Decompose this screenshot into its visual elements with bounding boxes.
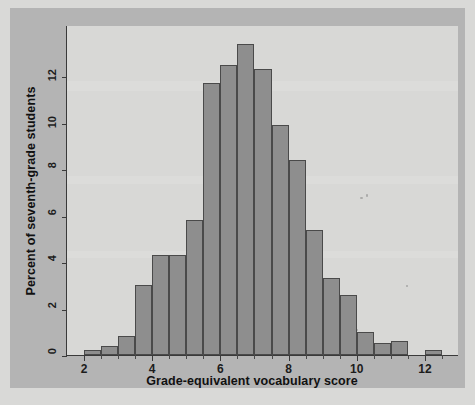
x-axis-minor-tick xyxy=(101,355,102,359)
x-axis-minor-tick xyxy=(272,355,273,359)
y-axis-tick-label: 0 xyxy=(46,348,58,362)
figure-panel: 024681012 24681012 Percent of seventh-gr… xyxy=(10,8,465,388)
x-axis-minor-tick xyxy=(340,355,341,359)
x-axis-minor-tick xyxy=(374,355,375,359)
x-axis-minor-tick xyxy=(135,355,136,359)
plot-area: 024681012 24681012 xyxy=(66,26,458,356)
x-axis-title: Grade-equivalent vocabulary score xyxy=(56,374,448,388)
x-axis-tick xyxy=(289,355,290,361)
x-axis-minor-tick xyxy=(203,355,204,359)
x-axis-tick xyxy=(84,355,85,361)
x-axis-tick xyxy=(152,355,153,361)
y-axis-tick xyxy=(62,310,67,311)
x-axis-minor-tick xyxy=(442,355,443,359)
x-axis-minor-tick xyxy=(323,355,324,359)
y-axis-tick-label: 8 xyxy=(46,162,58,176)
y-axis-tick-label: 2 xyxy=(46,302,58,316)
x-axis-minor-tick xyxy=(237,355,238,359)
x-axis-tick xyxy=(425,355,426,361)
x-axis-minor-tick xyxy=(391,355,392,359)
figure-root: 024681012 24681012 Percent of seventh-gr… xyxy=(0,0,475,405)
x-axis-tick xyxy=(357,355,358,361)
y-axis-tick-label: 12 xyxy=(46,69,58,83)
y-axis-tick-label: 10 xyxy=(46,116,58,130)
x-axis-tick xyxy=(220,355,221,361)
x-axis-minor-tick xyxy=(408,355,409,359)
y-axis-title: Percent of seventh-grade students xyxy=(24,26,42,356)
y-axis-tick xyxy=(62,217,67,218)
y-axis-tick-label: 6 xyxy=(46,209,58,223)
y-axis-tick xyxy=(62,170,67,171)
x-axis-minor-tick xyxy=(186,355,187,359)
y-axis: 024681012 xyxy=(67,26,458,355)
y-axis-tick xyxy=(62,124,67,125)
x-axis-minor-tick xyxy=(254,355,255,359)
y-axis-tick xyxy=(62,263,67,264)
x-axis-minor-tick xyxy=(118,355,119,359)
y-axis-tick xyxy=(62,77,67,78)
x-axis-minor-tick xyxy=(169,355,170,359)
y-axis-tick-label: 4 xyxy=(46,255,58,269)
x-axis-minor-tick xyxy=(306,355,307,359)
